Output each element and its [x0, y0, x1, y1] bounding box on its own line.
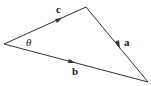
arrow-a-icon: [115, 40, 120, 49]
label-b: b: [72, 65, 78, 77]
edge-c: [4, 7, 86, 44]
label-a: a: [124, 36, 130, 48]
vector-triangle-diagram: c a b θ: [0, 0, 151, 86]
arrow-b-icon: [68, 59, 76, 63]
arrow-c-icon: [55, 18, 62, 23]
label-c: c: [56, 3, 61, 15]
label-theta: θ: [26, 36, 32, 48]
